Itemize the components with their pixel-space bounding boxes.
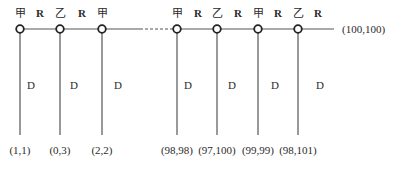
down-action-label: D xyxy=(70,79,78,91)
down-action-label: D xyxy=(316,79,324,91)
player-label: 甲 xyxy=(15,7,26,19)
down-action-label: D xyxy=(184,79,192,91)
right-action-label: R xyxy=(274,7,283,19)
payoff-label: (98,101) xyxy=(279,144,317,157)
decision-node xyxy=(56,25,64,33)
down-action-label: D xyxy=(228,79,236,91)
payoff-label: (97,100) xyxy=(198,144,236,157)
decision-node xyxy=(254,25,262,33)
down-action-label: D xyxy=(114,79,122,91)
right-action-label: R xyxy=(314,7,323,19)
payoff-label: (2,2) xyxy=(91,144,112,157)
right-action-label: R xyxy=(78,7,87,19)
payoff-label: (99,99) xyxy=(242,144,274,157)
right-action-label: R xyxy=(194,7,203,19)
player-label: 甲 xyxy=(172,7,183,19)
player-label: 乙 xyxy=(293,7,304,19)
terminal-payoff-label: (100,100) xyxy=(342,23,385,36)
down-action-label: D xyxy=(271,79,279,91)
centipede-game-tree: (100,100)甲(1,1)乙(0,3)甲(2,2)甲(98,98)乙(97,… xyxy=(0,0,393,170)
decision-node xyxy=(294,25,302,33)
player-label: 乙 xyxy=(212,7,223,19)
decision-node xyxy=(98,25,106,33)
tree-lines xyxy=(20,29,334,135)
player-label: 乙 xyxy=(55,7,66,19)
payoff-label: (98,98) xyxy=(161,144,193,157)
player-label: 甲 xyxy=(97,7,108,19)
right-action-label: R xyxy=(36,7,45,19)
decision-node xyxy=(16,25,24,33)
down-action-label: D xyxy=(27,79,35,91)
right-action-label: R xyxy=(234,7,243,19)
player-label: 甲 xyxy=(253,7,264,19)
payoff-label: (1,1) xyxy=(9,144,30,157)
payoff-label: (0,3) xyxy=(49,144,70,157)
decision-node xyxy=(213,25,221,33)
tree-nodes xyxy=(16,25,302,33)
decision-node xyxy=(173,25,181,33)
